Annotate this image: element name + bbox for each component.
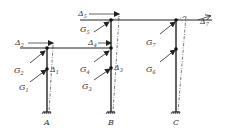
label-B: B bbox=[107, 118, 114, 127]
label-delta5: Δ5 bbox=[77, 9, 87, 19]
label-G4: G4 bbox=[80, 65, 90, 75]
support-C-icon bbox=[171, 112, 180, 114]
G1-arrow-icon bbox=[30, 70, 46, 82]
label-delta3: Δ3 bbox=[113, 63, 123, 73]
frame-diagram: Δ2 Δ1 Δ5 Δ4 Δ3 Δ7 G1 G2 G3 G4 G5 G6 G7 A… bbox=[0, 0, 225, 134]
label-G7: G7 bbox=[146, 38, 156, 48]
beams bbox=[20, 20, 212, 48]
G7-arrow-icon bbox=[160, 22, 175, 34]
support-A-icon bbox=[42, 112, 51, 114]
label-delta2: Δ2 bbox=[14, 38, 24, 48]
label-delta4: Δ4 bbox=[87, 38, 97, 48]
label-G6: G6 bbox=[146, 65, 156, 75]
label-C: C bbox=[173, 118, 179, 127]
G5-arrow-icon bbox=[94, 22, 109, 32]
columns bbox=[47, 20, 176, 112]
G2-arrow-icon bbox=[30, 51, 45, 63]
G4-arrow-icon bbox=[94, 51, 109, 62]
label-delta1: Δ1 bbox=[49, 65, 59, 75]
G3-arrow-icon bbox=[94, 69, 110, 80]
supports bbox=[42, 112, 180, 114]
label-A: A bbox=[43, 118, 50, 127]
label-G3: G3 bbox=[82, 82, 92, 92]
support-B-icon bbox=[106, 112, 115, 114]
label-delta7: Δ7 bbox=[199, 17, 210, 27]
label-G2: G2 bbox=[14, 66, 24, 76]
G6-arrow-icon bbox=[160, 50, 175, 62]
label-G5: G5 bbox=[80, 25, 90, 35]
label-G1: G1 bbox=[19, 83, 29, 93]
